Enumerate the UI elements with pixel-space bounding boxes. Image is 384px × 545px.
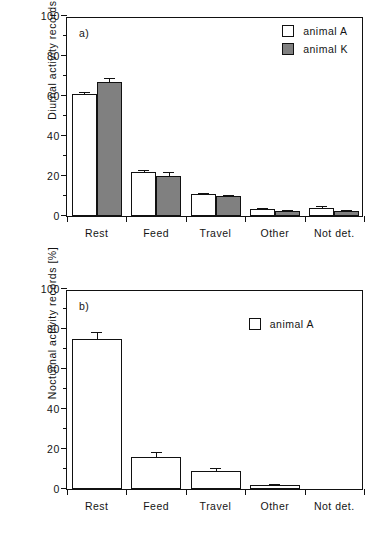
error-bar-cap [198,193,209,194]
figure-activity-records: Diurnal activity records [%] a) animal A… [0,0,384,545]
y-tick-minor [63,428,67,429]
bar [250,209,275,216]
error-bar [210,468,221,471]
error-bar-cap [79,92,90,93]
plot-area-a: 020406080100RestFeedTravelOtherNot det. [67,18,362,216]
plot-frame-a: a) animal A animal K 020406080100RestFee… [66,17,363,217]
y-tick-label: 80 [47,50,60,62]
y-tick-minor [63,308,67,309]
x-tick [67,216,68,222]
error-bar-stem [97,332,98,339]
error-bar [138,170,149,172]
y-tick-minor [63,75,67,76]
bar [309,208,334,216]
x-tick [364,489,365,495]
error-bar-cap [151,452,162,453]
y-tick-minor [63,35,67,36]
x-tick [186,216,187,222]
x-tick [126,489,127,495]
x-tick-label: Rest [85,227,109,239]
error-bar-cap [223,195,234,196]
x-tick-label: Feed [143,500,169,512]
bar [334,211,359,216]
y-tick-major [61,55,67,56]
error-bar [151,452,162,457]
y-tick-minor [63,468,67,469]
y-tick-label: 40 [47,130,60,142]
y-tick-label: 60 [47,363,60,375]
y-tick-label: 60 [47,90,60,102]
plot-frame-b: b) animal A 020406080100RestFeedTravelOt… [66,290,363,490]
x-tick [364,216,365,222]
y-tick-label: 20 [47,170,60,182]
bar [250,485,300,489]
error-bar [282,210,293,211]
x-tick-label: Other [261,500,290,512]
y-tick-minor [63,115,67,116]
error-bar-cap [316,206,327,207]
error-bar-cap [163,172,174,173]
panel-b-nocturnal: Nocturnal activity records [%] b) animal… [0,273,384,545]
y-tick-major [61,328,67,329]
y-tick-major [61,408,67,409]
y-tick-major [61,175,67,176]
error-bar-cap [257,208,268,209]
bar [275,211,300,216]
error-bar [223,195,234,196]
error-bar [79,92,90,94]
y-tick-major [61,15,67,16]
y-tick-label: 0 [54,483,60,495]
error-bar-cap [91,332,102,333]
error-bar-cap [269,484,280,485]
x-tick-label: Rest [85,500,109,512]
x-tick [126,216,127,222]
y-tick-minor [63,195,67,196]
plot-area-b: 020406080100RestFeedTravelOtherNot det. [67,291,362,489]
x-tick [245,489,246,495]
x-tick [245,216,246,222]
bar [191,471,241,489]
x-tick [186,489,187,495]
bar [72,94,97,216]
bar [72,339,122,489]
bar [97,82,122,216]
error-bar-cap [341,210,352,211]
error-bar-cap [210,468,221,469]
y-tick-label: 100 [41,283,60,295]
y-tick-major [61,135,67,136]
x-tick-label: Travel [200,500,232,512]
y-tick-minor [63,348,67,349]
y-tick-major [61,448,67,449]
x-tick-label: Feed [143,227,169,239]
error-bar [91,332,102,339]
error-bar [316,206,327,208]
error-bar [198,193,209,194]
y-tick-label: 80 [47,323,60,335]
y-tick-major [61,288,67,289]
x-tick-label: Not det. [314,227,355,239]
x-tick [305,216,306,222]
error-bar [341,210,352,211]
error-bar [163,172,174,176]
bar [131,457,181,489]
y-tick-label: 100 [41,10,60,22]
error-bar-cap [104,78,115,79]
error-bar [269,484,280,485]
error-bar [257,208,268,209]
x-tick [305,489,306,495]
x-tick-label: Not det. [314,500,355,512]
x-tick-label: Other [261,227,290,239]
x-tick [67,489,68,495]
y-tick-major [61,368,67,369]
error-bar-cap [138,170,149,171]
y-tick-label: 40 [47,403,60,415]
bar [131,172,156,216]
x-tick-label: Travel [200,227,232,239]
y-tick-minor [63,388,67,389]
bar [156,176,181,216]
y-tick-major [61,95,67,96]
y-tick-label: 20 [47,443,60,455]
error-bar-cap [282,210,293,211]
y-tick-minor [63,155,67,156]
error-bar [104,78,115,82]
